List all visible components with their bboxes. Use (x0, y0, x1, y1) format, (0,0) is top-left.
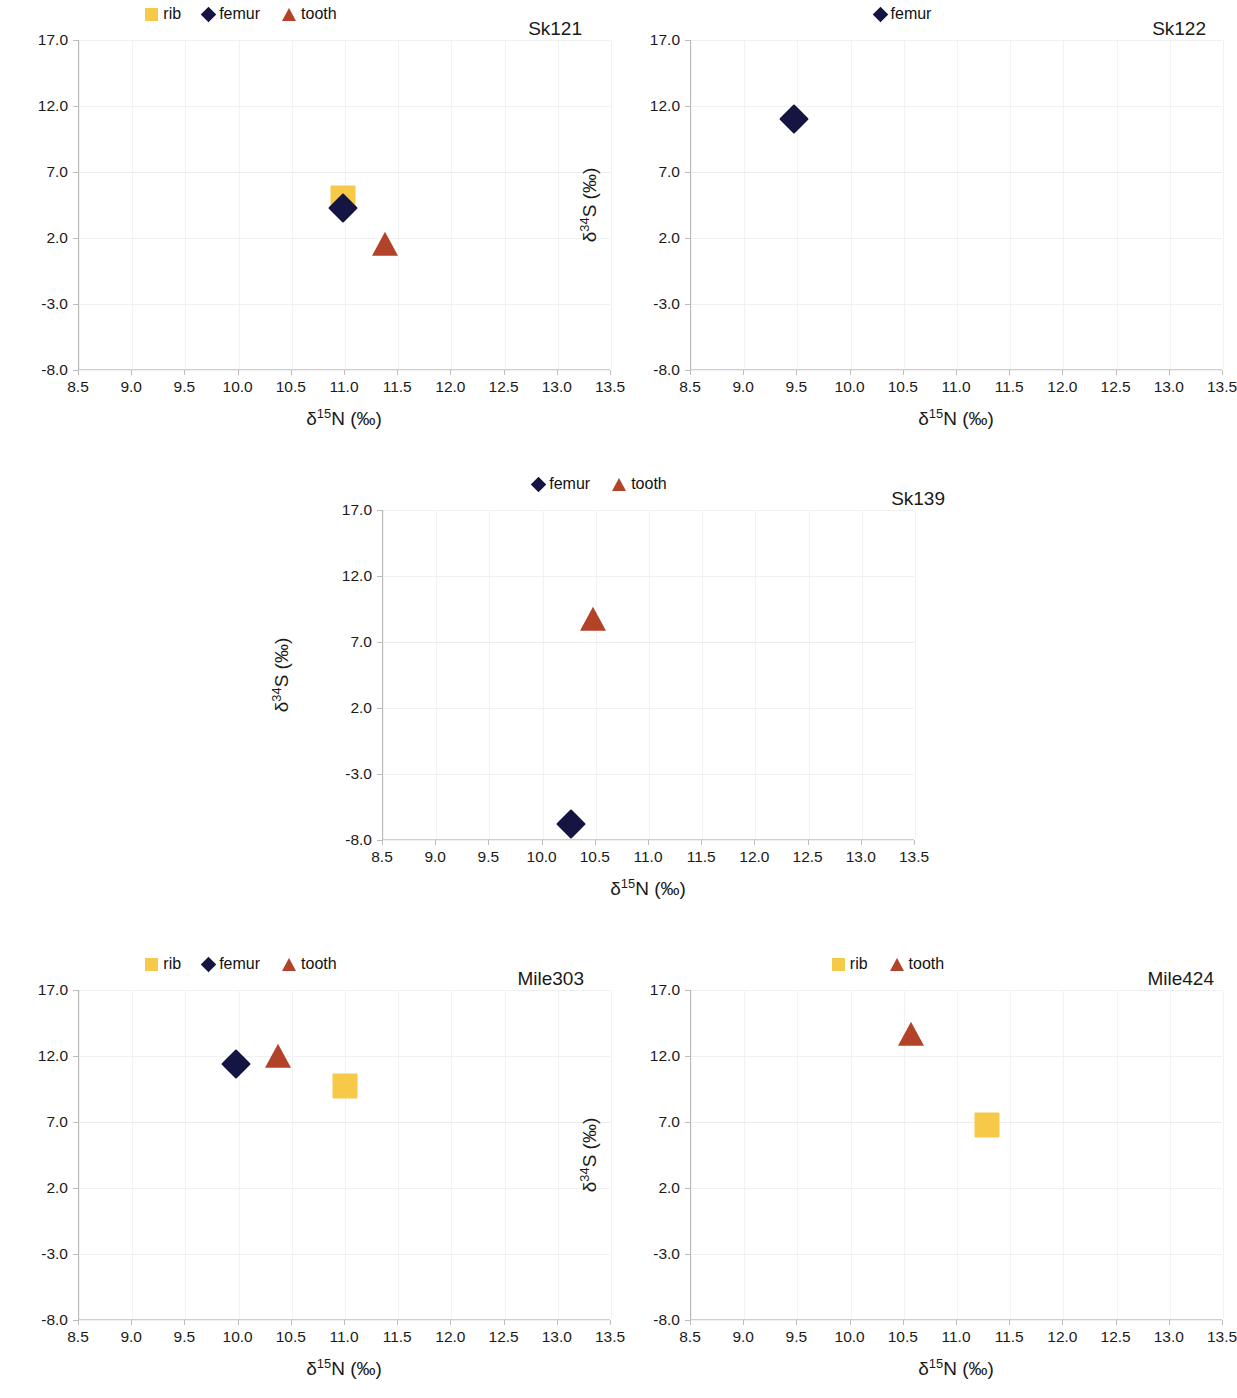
y-axis-tick (685, 1188, 690, 1189)
x-axis-tick (397, 1320, 398, 1325)
gridline-horizontal (691, 990, 1222, 991)
x-axis-tick (796, 370, 797, 375)
legend-item-femur[interactable]: femur (203, 956, 260, 972)
gridline-vertical (744, 40, 745, 369)
gridline-horizontal (691, 106, 1222, 107)
x-axis-tick (1009, 1320, 1010, 1325)
data-point-femur (556, 809, 586, 839)
y-axis-tick-label: 7.0 (628, 163, 680, 181)
y-axis-tick-label: -8.0 (16, 1311, 68, 1329)
legend-item-femur[interactable]: femur (203, 6, 260, 22)
x-axis-tick-label: 13.5 (1207, 1328, 1237, 1346)
legend-item-tooth[interactable]: tooth (612, 476, 667, 492)
legend-label: femur (891, 6, 932, 22)
x-axis-tick-label: 8.5 (679, 378, 701, 396)
gridline-horizontal (79, 1188, 610, 1189)
legend-item-femur[interactable]: femur (533, 476, 590, 492)
x-axis-tick-label: 12.0 (435, 1328, 465, 1346)
gridline-vertical (398, 40, 399, 369)
x-axis-tick (382, 840, 383, 845)
tooth-marker-icon (282, 958, 296, 971)
x-axis-tick-label: 11.5 (687, 848, 716, 866)
chart-legend: femur (597, 6, 1209, 22)
gridline-horizontal (383, 774, 914, 775)
y-axis-tick-label: 2.0 (16, 229, 68, 247)
gridline-vertical (649, 510, 650, 839)
x-axis-tick (542, 840, 543, 845)
gridline-vertical (185, 40, 186, 369)
x-axis-tick-label: 12.0 (435, 378, 465, 396)
gridline-horizontal (383, 708, 914, 709)
gridline-vertical (132, 40, 133, 369)
gridline-vertical (489, 510, 490, 839)
x-axis-tick-label: 10.0 (527, 848, 557, 866)
x-axis-tick (1062, 370, 1063, 375)
y-axis-tick (73, 1188, 78, 1189)
y-axis-tick-label: 2.0 (628, 1179, 680, 1197)
y-axis-tick-label: -3.0 (16, 295, 68, 313)
x-axis-tick-label: 11.5 (383, 378, 412, 396)
legend-item-rib[interactable]: rib (145, 6, 181, 22)
x-axis-tick-label: 10.0 (223, 378, 253, 396)
y-axis-tick (73, 106, 78, 107)
chart-title: Sk121 (528, 18, 582, 40)
data-point-tooth (265, 1044, 291, 1068)
legend-item-tooth[interactable]: tooth (282, 6, 337, 22)
x-axis-tick-label: 11.0 (941, 1328, 970, 1346)
y-axis-tick-label: 12.0 (16, 1047, 68, 1065)
femur-marker-icon (201, 956, 217, 972)
x-axis-tick-label: 10.0 (835, 1328, 865, 1346)
y-axis-tick (685, 172, 690, 173)
y-axis-tick (685, 990, 690, 991)
gridline-vertical (185, 990, 186, 1319)
gridline-horizontal (691, 1254, 1222, 1255)
y-axis-tick (73, 1122, 78, 1123)
gridline-vertical (505, 40, 506, 369)
tooth-marker-icon (282, 8, 296, 21)
chart-legend: ribtooth (582, 956, 1194, 972)
x-axis-tick (397, 370, 398, 375)
x-axis-tick-label: 13.0 (542, 378, 572, 396)
x-axis-tick-label: 12.5 (1101, 1328, 1131, 1346)
x-axis-tick (690, 370, 691, 375)
legend-label: rib (163, 6, 181, 22)
y-axis-tick-label: 17.0 (628, 981, 680, 999)
femur-marker-icon (531, 476, 547, 492)
x-axis-tick (504, 370, 505, 375)
x-axis-tick-label: 11.0 (329, 1328, 358, 1346)
y-axis-tick-label: 17.0 (628, 31, 680, 49)
y-axis-tick (377, 708, 382, 709)
gridline-vertical (383, 510, 384, 839)
gridline-vertical (851, 40, 852, 369)
x-axis-tick-label: 11.5 (995, 1328, 1024, 1346)
gridline-vertical (1063, 990, 1064, 1319)
gridline-vertical (915, 510, 916, 839)
x-axis-tick (450, 1320, 451, 1325)
y-axis-tick (73, 1254, 78, 1255)
y-axis-title: δ34S (‰) (271, 638, 293, 713)
legend-item-rib[interactable]: rib (145, 956, 181, 972)
x-axis-tick-label: 10.0 (223, 1328, 253, 1346)
legend-item-tooth[interactable]: tooth (282, 956, 337, 972)
x-axis-tick (796, 1320, 797, 1325)
legend-item-femur[interactable]: femur (875, 6, 932, 22)
legend-label: rib (163, 956, 181, 972)
x-axis-tick (435, 840, 436, 845)
x-axis-tick (850, 1320, 851, 1325)
x-axis-tick (131, 1320, 132, 1325)
legend-item-rib[interactable]: rib (832, 956, 868, 972)
chart-legend: ribfemurtooth (0, 6, 547, 22)
gridline-vertical (1170, 990, 1171, 1319)
y-axis-tick (685, 304, 690, 305)
gridline-vertical (904, 40, 905, 369)
x-axis-tick-label: 13.0 (542, 1328, 572, 1346)
legend-item-tooth[interactable]: tooth (890, 956, 945, 972)
legend-label: femur (219, 956, 260, 972)
gridline-vertical (1223, 990, 1224, 1319)
y-axis-tick-label: -3.0 (16, 1245, 68, 1263)
y-axis-tick (73, 1056, 78, 1057)
femur-marker-icon (201, 6, 217, 22)
x-axis-tick (238, 370, 239, 375)
gridline-horizontal (79, 1122, 610, 1123)
y-axis-title: δ34S (‰) (579, 168, 601, 243)
